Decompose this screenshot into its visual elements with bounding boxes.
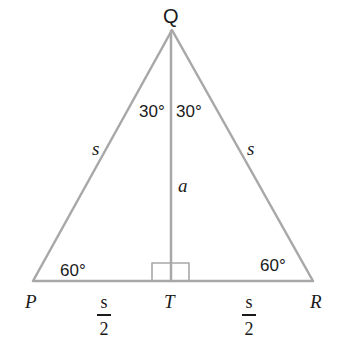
vertex-label-p: P: [25, 292, 37, 311]
fraction-denominator: 2: [242, 320, 256, 338]
fraction-numerator: s: [242, 293, 256, 311]
vertex-label-q: Q: [163, 6, 179, 26]
angle-label-base-right: 60°: [260, 257, 286, 274]
fraction-denominator: 2: [97, 320, 111, 338]
angle-label-apex-left: 30°: [139, 103, 165, 120]
triangle-pqr: [33, 30, 313, 281]
side-label-ps: s: [92, 139, 99, 158]
altitude-label-a: a: [178, 176, 188, 195]
vertex-label-t: T: [164, 292, 175, 311]
vertex-label-r: R: [310, 292, 322, 311]
angle-label-base-left: 60°: [60, 262, 86, 279]
half-base-right: s 2: [242, 293, 256, 338]
half-base-left: s 2: [97, 293, 111, 338]
fraction-bar: [97, 314, 111, 316]
side-label-rs: s: [247, 139, 254, 158]
fraction-bar: [242, 314, 256, 316]
angle-label-apex-right: 30°: [176, 103, 202, 120]
fraction-numerator: s: [97, 293, 111, 311]
